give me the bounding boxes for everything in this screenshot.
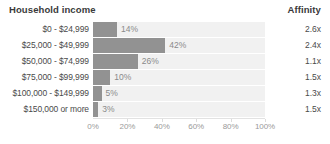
axis-tick-label: 0% xyxy=(87,122,98,131)
table-row: $50,000 - $74,99926%1.1x xyxy=(0,54,330,69)
bar-track: 26% xyxy=(93,54,265,69)
affinity-value: 1.5x xyxy=(265,70,330,85)
row-label: $0 - $24,999 xyxy=(0,22,93,37)
affinity-value: 2.6x xyxy=(265,22,330,37)
chart-rows-container: $0 - $24,99914%2.6x$25,000 - $49,99942%2… xyxy=(0,22,330,117)
bar xyxy=(93,54,138,69)
bar-value-label: 42% xyxy=(165,38,186,53)
bar-track: 10% xyxy=(93,70,265,85)
bar-value-label: 10% xyxy=(110,70,131,85)
axis-tick-label: 40% xyxy=(154,122,170,131)
x-axis: 0%20%40%60%80%100% xyxy=(0,118,330,134)
affinity-value: 1.3x xyxy=(265,86,330,101)
affinity-value: 1.5x xyxy=(265,102,330,117)
bar-track: 5% xyxy=(93,86,265,101)
affinity-column-header: Affinity xyxy=(287,4,321,15)
bar xyxy=(93,86,102,101)
bar-value-label: 3% xyxy=(98,102,114,117)
axis-tick-label: 20% xyxy=(120,122,136,131)
chart-header: Household income Affinity xyxy=(0,0,330,22)
bar xyxy=(93,22,117,37)
affinity-value: 1.1x xyxy=(265,54,330,69)
table-row: $150,000 or more3%1.5x xyxy=(0,102,330,117)
bar-track: 42% xyxy=(93,38,265,53)
axis-tick-label: 60% xyxy=(188,122,204,131)
bar-value-label: 14% xyxy=(117,22,138,37)
table-row: $75,000 - $99,99910%1.5x xyxy=(0,70,330,85)
row-label: $75,000 - $99,999 xyxy=(0,70,93,85)
table-row: $100,000 - $149,9995%1.3x xyxy=(0,86,330,101)
table-row: $0 - $24,99914%2.6x xyxy=(0,22,330,37)
bar xyxy=(93,38,165,53)
axis-left-spacer xyxy=(0,118,93,134)
bar xyxy=(93,70,110,85)
axis-scale: 0%20%40%60%80%100% xyxy=(93,118,265,134)
affinity-value: 2.4x xyxy=(265,38,330,53)
bar-track: 3% xyxy=(93,102,265,117)
axis-tick-label: 80% xyxy=(223,122,239,131)
row-label: $150,000 or more xyxy=(0,102,93,117)
table-row: $25,000 - $49,99942%2.4x xyxy=(0,38,330,53)
bar-value-label: 26% xyxy=(138,54,159,69)
axis-tick-label: 100% xyxy=(255,122,275,131)
household-income-affinity-chart: Household income Affinity $0 - $24,99914… xyxy=(0,0,330,144)
row-label: $100,000 - $149,999 xyxy=(0,86,93,101)
bar-track: 14% xyxy=(93,22,265,37)
row-label: $50,000 - $74,999 xyxy=(0,54,93,69)
bar-value-label: 5% xyxy=(102,86,118,101)
page-title: Household income xyxy=(9,4,96,15)
row-label: $25,000 - $49,999 xyxy=(0,38,93,53)
